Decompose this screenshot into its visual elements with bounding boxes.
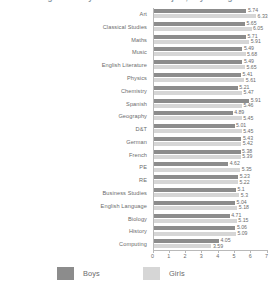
bar-boys — [153, 35, 246, 39]
bar-value-girls: 5.46 — [242, 103, 254, 108]
bar-boys — [153, 124, 235, 128]
x-tick-label: 3 — [194, 253, 208, 260]
bar-boys — [153, 99, 249, 103]
category-label: Classical Studies — [0, 21, 150, 34]
chart-legend: BoysGirls — [0, 266, 270, 286]
bar-boys — [153, 239, 219, 243]
bar-rows: Art5.746.33Classical Studies5.656.05Math… — [0, 8, 270, 251]
bar-value-girls: 6.05 — [252, 26, 264, 31]
bar-girls — [153, 232, 236, 236]
bar-value-girls: 5.91 — [249, 39, 261, 44]
legend-item-boys[interactable]: Boys — [57, 266, 100, 280]
bar-boys — [153, 226, 235, 230]
bar-girls — [153, 129, 242, 133]
category-label: English Language — [0, 200, 150, 213]
bar-girls — [153, 168, 240, 172]
bar-girls — [153, 206, 237, 210]
bar-group: 5.235.22 — [153, 174, 270, 187]
bar-boys — [153, 214, 230, 218]
bar-value-girls: 5.22 — [238, 180, 250, 185]
bar-row: PE4.625.35 — [0, 161, 270, 174]
bar-value-boys: 5.74 — [246, 8, 258, 13]
bar-boys — [153, 188, 236, 192]
bar-row: Art5.746.33 — [0, 8, 270, 21]
bar-group: 4.715.15 — [153, 213, 270, 226]
category-label: Maths — [0, 34, 150, 47]
bar-group: 5.045.18 — [153, 200, 270, 213]
bar-group: 5.415.61 — [153, 72, 270, 85]
bar-value-girls: 5.45 — [242, 129, 254, 134]
bar-girls — [153, 40, 249, 44]
bar-group: 4.895.45 — [153, 110, 270, 123]
bar-value-girls: 5.47 — [242, 90, 254, 95]
plot-area: Art5.746.33Classical Studies5.656.05Math… — [0, 8, 270, 251]
bar-girls — [153, 78, 244, 82]
bar-group: 4.625.35 — [153, 161, 270, 174]
category-label: RE — [0, 174, 150, 187]
bar-girls — [153, 142, 241, 146]
bar-value-girls: 5.15 — [237, 218, 249, 223]
bar-girls — [153, 155, 241, 159]
category-label: D&T — [0, 123, 150, 136]
bar-chart: Average difficulty scores for each subje… — [0, 0, 270, 289]
bar-group: 5.15.3 — [153, 187, 270, 200]
category-label: Business Studies — [0, 187, 150, 200]
bar-group: 5.915.46 — [153, 98, 270, 111]
x-tick-label: 5 — [227, 253, 241, 260]
category-label: Music — [0, 46, 150, 59]
bar-value-girls: 5.39 — [241, 154, 253, 159]
bar-girls — [153, 244, 211, 248]
bar-boys — [153, 201, 235, 205]
bar-row: Classical Studies5.656.05 — [0, 21, 270, 34]
bar-value-girls: 3.59 — [211, 244, 223, 249]
bar-boys — [153, 9, 246, 13]
x-tick-label: 6 — [243, 253, 257, 260]
bar-row: Chemistry5.215.47 — [0, 85, 270, 98]
bar-boys — [153, 137, 241, 141]
bar-row: Spanish5.915.46 — [0, 98, 270, 111]
bar-value-girls: 5.68 — [246, 52, 258, 57]
bar-group: 5.746.33 — [153, 8, 270, 21]
bar-row: Physics5.415.61 — [0, 72, 270, 85]
legend-label-girls: Girls — [169, 269, 185, 278]
bar-girls — [153, 27, 252, 31]
category-label: Physics — [0, 72, 150, 85]
x-tick-label: 1 — [162, 253, 176, 260]
category-label: History — [0, 225, 150, 238]
legend-swatch-girls — [143, 267, 160, 280]
bar-value-girls: 5.3 — [239, 193, 248, 198]
bar-boys — [153, 60, 242, 64]
legend-item-girls[interactable]: Girls — [143, 266, 185, 280]
bar-girls — [153, 14, 256, 18]
legend-swatch-boys — [57, 267, 74, 280]
bar-boys — [153, 47, 242, 51]
category-label: German — [0, 136, 150, 149]
category-label: French — [0, 149, 150, 162]
bar-row: Biology4.715.15 — [0, 213, 270, 226]
category-label: Computing — [0, 238, 150, 251]
bar-row: RE5.235.22 — [0, 174, 270, 187]
bar-group: 5.656.05 — [153, 21, 270, 34]
bar-boys — [153, 73, 241, 77]
bar-boys — [153, 162, 228, 166]
x-tick-label: 4 — [211, 253, 225, 260]
category-label: PE — [0, 161, 150, 174]
bar-girls — [153, 91, 242, 95]
bar-boys — [153, 111, 233, 115]
x-tick-label: 0 — [146, 253, 160, 260]
bar-value-girls: 5.61 — [244, 78, 256, 83]
category-label: Art — [0, 8, 150, 21]
bar-girls — [153, 193, 239, 197]
bar-value-boys: 4.62 — [228, 161, 240, 166]
chart-title: Average difficulty scores for each subje… — [0, 0, 270, 4]
bar-value-girls: 6.33 — [256, 14, 268, 19]
bar-row: Music5.495.68 — [0, 46, 270, 59]
bar-row: English Literature5.495.65 — [0, 59, 270, 72]
bar-boys — [153, 150, 241, 154]
bar-row: German5.435.42 — [0, 136, 270, 149]
bar-boys — [153, 22, 245, 26]
bar-row: Geography4.895.45 — [0, 110, 270, 123]
bar-group: 5.385.39 — [153, 149, 270, 162]
bar-boys — [153, 86, 238, 90]
category-label: Spanish — [0, 98, 150, 111]
